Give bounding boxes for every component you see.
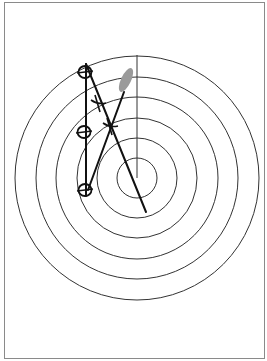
x-mark-2 — [103, 118, 118, 135]
target-echo — [116, 66, 136, 94]
true-track-line — [88, 92, 124, 190]
plot-2 — [76, 126, 92, 138]
radar-plot — [0, 0, 267, 361]
x-marks — [91, 95, 118, 135]
plot-markers — [76, 66, 93, 196]
